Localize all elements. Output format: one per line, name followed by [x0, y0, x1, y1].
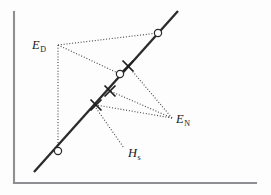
figure-container: ED EN Hs: [0, 0, 271, 195]
label-e-n-sub: N: [184, 119, 190, 128]
labels-group: ED EN Hs: [31, 38, 190, 162]
dotted-en-to-x-middle: [110, 91, 172, 118]
dotted-en-to-x-lower: [96, 105, 172, 118]
geometry-diagram: ED EN Hs: [0, 0, 271, 195]
hs-leader-line: [96, 108, 124, 148]
label-e-d: ED: [31, 38, 46, 54]
x-marker-upper: [123, 61, 134, 72]
circle-marker-lower-left: [54, 147, 61, 154]
dotted-en-to-x-upper: [128, 66, 172, 118]
en-dotted-rays: [96, 66, 172, 118]
label-h-s: Hs: [127, 146, 141, 162]
label-h-s-sub: s: [138, 153, 141, 162]
label-e-n-base: E: [175, 112, 184, 126]
dotted-ed-to-circle-middle: [58, 45, 120, 74]
circle-marker-middle: [116, 70, 123, 77]
circle-marker-upper-right: [154, 29, 161, 36]
dotted-ed-to-circle-upper-right: [58, 33, 158, 45]
label-e-d-base: E: [31, 38, 40, 52]
label-e-d-sub: D: [40, 45, 46, 54]
label-e-n: EN: [175, 112, 190, 128]
label-h-s-base: H: [127, 146, 138, 160]
